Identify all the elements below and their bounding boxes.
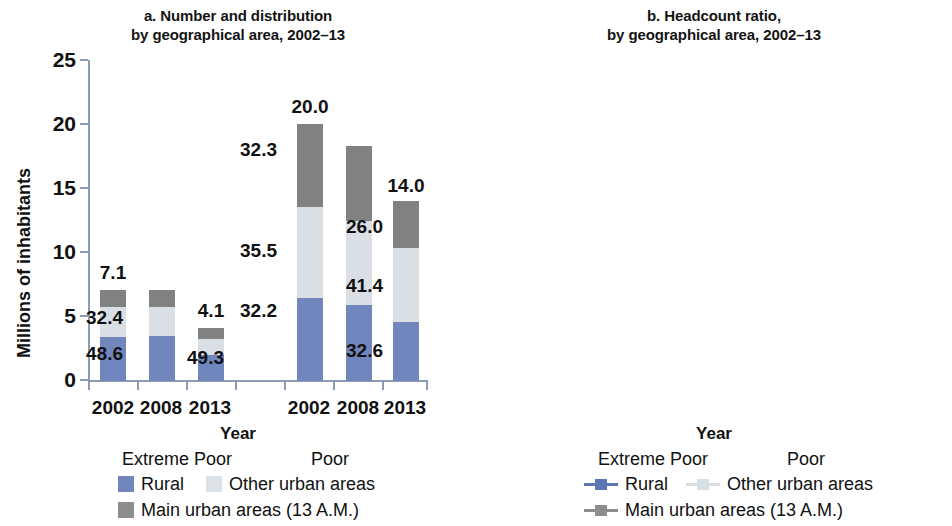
bar-extreme-poor-2002	[100, 290, 126, 381]
bar-poor-2002	[297, 124, 323, 381]
panel-b-group-label-poor: Poor	[751, 449, 861, 470]
panel-a-bar-chart: a. Number and distribution by geographic…	[0, 0, 476, 526]
panel-b-title: b. Headcount ratio, by geographical area…	[476, 6, 952, 44]
panel-b-legend: Rural Other urban areas Main urban areas…	[584, 471, 873, 523]
panel-a-ytick-0	[80, 379, 88, 381]
panel-b-legend-item-other-urban: Other urban areas	[686, 474, 873, 495]
panel-b-title-line1: b. Headcount ratio,	[647, 7, 781, 24]
bar-segment-rural	[297, 298, 323, 381]
panel-a-x-axis-label: Year	[178, 424, 298, 444]
panel-a-ytick-label-15: 15	[53, 176, 76, 200]
panel-a-ytick-20	[80, 123, 88, 125]
bar-segment-main-urban	[198, 328, 224, 339]
panel-a-ytick-25	[80, 59, 88, 61]
panel-a-ytick-15	[80, 187, 88, 189]
panel-b-legend-item-rural: Rural	[584, 474, 668, 495]
rural-swatch-icon	[118, 476, 134, 492]
bar-segment-rural	[393, 322, 419, 381]
panel-a-legend-label-main-urban: Main urban areas (13 A.M.)	[141, 500, 359, 521]
panel-a-title-line2: by geographical area, 2002–13	[0, 25, 476, 44]
panel-a-xtick-label-2: 2013	[189, 397, 231, 419]
share-label-extreme-poor-2002-other: 32.4	[86, 307, 123, 329]
bar-segment-other-urban	[149, 307, 175, 336]
figure-root: a. Number and distribution by geographic…	[0, 0, 952, 526]
panel-b-title-line2: by geographical area, 2002–13	[476, 25, 952, 44]
panel-a-title: a. Number and distribution by geographic…	[0, 6, 476, 44]
panel-a-xtick-label-1: 2008	[140, 397, 182, 419]
bar-total-label-extreme-poor-2002: 7.1	[100, 262, 126, 284]
main-urban-swatch-icon	[118, 502, 134, 518]
panel-a-ytick-label-25: 25	[53, 48, 76, 72]
bar-segment-main-urban	[393, 201, 419, 248]
panel-a-title-line1: a. Number and distribution	[144, 7, 332, 24]
panel-b-legend-item-main-urban: Main urban areas (13 A.M.)	[584, 500, 843, 521]
panel-a-legend-item-main-urban: Main urban areas (13 A.M.)	[118, 500, 359, 521]
bar-segment-main-urban	[346, 146, 372, 221]
share-label-poor-2013-other: 41.4	[346, 275, 383, 297]
bar-extreme-poor-2008	[149, 290, 175, 381]
share-label-poor-2013-main: 26.0	[346, 216, 383, 238]
panel-a-y-axis	[88, 60, 90, 381]
other-urban-swatch-icon	[206, 476, 222, 492]
panel-a-ytick-label-0: 0	[64, 368, 76, 392]
panel-a-legend-item-other-urban: Other urban areas	[206, 474, 375, 495]
panel-b-legend-row-1: Rural Other urban areas	[584, 471, 873, 497]
panel-a-group-label-extreme-poor: Extreme Poor	[92, 449, 262, 470]
panel-a-xtick-edge-6	[382, 381, 384, 390]
panel-a-legend: Rural Other urban areas Main urban areas…	[118, 471, 375, 523]
panel-a-legend-label-rural: Rural	[141, 474, 184, 495]
bar-total-label-poor-2002: 20.0	[292, 96, 329, 118]
panel-b-group-label-extreme-poor: Extreme Poor	[568, 449, 738, 470]
panel-a-legend-label-other-urban: Other urban areas	[229, 474, 375, 495]
panel-b-legend-label-rural: Rural	[625, 474, 668, 495]
panel-a-xtick-edge-7	[426, 381, 428, 390]
panel-a-group-label-poor: Poor	[275, 449, 385, 470]
panel-a-ytick-label-10: 10	[53, 240, 76, 264]
panel-a-ytick-label-20: 20	[53, 112, 76, 136]
panel-a-xtick-edge-1	[137, 381, 139, 390]
bar-segment-main-urban	[297, 124, 323, 207]
panel-b-x-axis-label: Year	[654, 424, 774, 444]
panel-a-xtick-edge-4	[284, 381, 286, 390]
panel-b-legend-label-other-urban: Other urban areas	[727, 474, 873, 495]
panel-a-y-axis-label: Millions of inhabitants	[14, 168, 35, 358]
bar-total-label-extreme-poor-2013: 4.1	[198, 300, 224, 322]
share-label-poor-2002-rural: 32.2	[240, 300, 277, 322]
panel-a-xtick-edge-2	[186, 381, 188, 390]
share-label-poor-2002-other: 35.5	[240, 240, 277, 262]
panel-a-legend-row-2: Main urban areas (13 A.M.)	[118, 497, 375, 523]
panel-a-legend-row-1: Rural Other urban areas	[118, 471, 375, 497]
panel-b-line-chart: b. Headcount ratio, by geographical area…	[476, 0, 952, 526]
panel-a-ytick-label-5: 5	[64, 304, 76, 328]
panel-a-xtick-edge-5	[333, 381, 335, 390]
bar-segment-main-urban	[100, 290, 126, 307]
panel-a-xtick-label-4: 2008	[337, 397, 379, 419]
bar-poor-2013	[393, 201, 419, 381]
main-urban-line-marker-icon	[584, 502, 618, 518]
panel-a-ytick-10	[80, 251, 88, 253]
panel-a-legend-item-rural: Rural	[118, 474, 184, 495]
bar-segment-other-urban	[393, 248, 419, 322]
bar-total-label-poor-2013: 14.0	[388, 175, 425, 197]
panel-b-legend-row-2: Main urban areas (13 A.M.)	[584, 497, 873, 523]
panel-a-xtick-label-5: 2013	[384, 397, 426, 419]
panel-a-plot-area: 0 5 10 15 20 25 2002 2008 2013 2002 2008	[88, 60, 428, 381]
panel-a-xtick-label-3: 2002	[288, 397, 330, 419]
bar-segment-main-urban	[149, 290, 175, 307]
panel-a-xtick-edge-0	[88, 381, 90, 390]
panel-a-x-axis	[88, 380, 428, 382]
panel-b-legend-label-main-urban: Main urban areas (13 A.M.)	[625, 500, 843, 521]
panel-a-xtick-label-0: 2002	[92, 397, 134, 419]
share-label-extreme-poor-2013-rural: 49.3	[187, 347, 224, 369]
bar-segment-rural	[149, 336, 175, 381]
share-label-extreme-poor-2002-rural: 48.6	[86, 343, 123, 365]
bar-segment-other-urban	[297, 207, 323, 298]
share-label-poor-2013-rural: 32.6	[346, 340, 383, 362]
rural-line-marker-icon	[584, 476, 618, 492]
panel-a-xtick-edge-3	[235, 381, 237, 390]
share-label-poor-2002-main: 32.3	[240, 139, 277, 161]
other-urban-line-marker-icon	[686, 476, 720, 492]
